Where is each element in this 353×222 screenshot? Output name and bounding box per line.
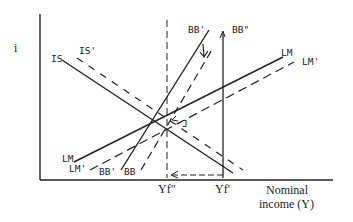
- bb-double-prime-label: BB": [232, 24, 249, 35]
- lm-prime-curve: [90, 62, 294, 170]
- is-prime-curve: [77, 58, 243, 170]
- is-curve: [62, 60, 233, 173]
- lm-label: LM: [281, 47, 293, 58]
- x-axis-label-line1: Nominal: [266, 183, 309, 197]
- yf-prime-tick: Yf': [215, 182, 230, 196]
- bb-prime-top-label: BB': [188, 24, 205, 35]
- lm-prime-label-lower: LM': [69, 163, 86, 174]
- bb-prime-bottom-label: BB': [99, 166, 116, 177]
- lm-curve: [74, 57, 283, 162]
- is-prime-label: IS': [79, 45, 96, 56]
- is-label: IS: [51, 53, 63, 64]
- bb-shift-arrow-icon: [200, 44, 208, 57]
- lm-prime-label: LM': [302, 56, 319, 67]
- point-j-label: J: [182, 118, 188, 129]
- j-arrow-icon: [172, 116, 178, 121]
- yf-double-prime-tick: Yf": [158, 182, 176, 196]
- bb-label: BB: [124, 166, 136, 177]
- x-axis-label-line2: income (Y): [259, 197, 314, 211]
- y-axis-label: i: [14, 41, 18, 55]
- is-lm-bb-diagram: i IS IS' BB' BB" LM LM' LM LM' BB' BB J …: [0, 0, 353, 222]
